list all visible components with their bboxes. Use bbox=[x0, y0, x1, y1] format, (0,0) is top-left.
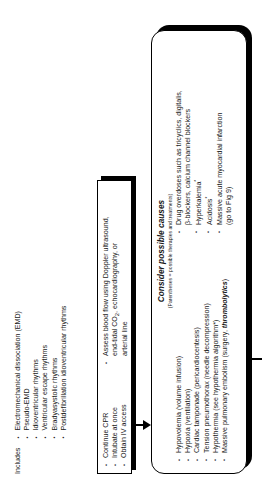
list-item: Idioventricular rhythms bbox=[32, 306, 41, 439]
assess-line-2b: , echocardiography, or bbox=[111, 243, 119, 313]
includes-label: Includes bbox=[14, 439, 22, 474]
consider-possible-causes-box: Consider possible causes (Parentheses = … bbox=[151, 30, 247, 474]
assessment-list: Assess blood flow using Doppler ultrasou… bbox=[102, 187, 130, 364]
myocardial-infarction-line-2: (go to Fig 9) bbox=[225, 187, 233, 225]
list-item: Postdefibrillation idioventricular rhyth… bbox=[60, 306, 69, 439]
assess-line-1: Assess blood flow using Doppler ultrasou… bbox=[102, 216, 110, 356]
interventions-box: Continue CPR Intubate at once Obtain IV … bbox=[97, 180, 132, 474]
arrow-down-icon bbox=[132, 418, 152, 432]
includes-list: Electromechanical dissociation (EMD) Pse… bbox=[14, 306, 69, 439]
list-item: Hypoxia (ventilation) bbox=[184, 245, 193, 461]
list-item: Massive pulmonary embolism (surgery, thr… bbox=[221, 245, 230, 461]
causes-title: Consider possible causes bbox=[157, 41, 166, 461]
list-item: Acidosis* bbox=[204, 41, 215, 233]
embolism-suffix: ) bbox=[221, 279, 229, 281]
assess-line-3: arterial line bbox=[121, 321, 129, 356]
list-item: Cardiac tamponade (pericardiocentesis) bbox=[193, 245, 202, 461]
list-item: Bradyasystolic rhythms bbox=[51, 306, 60, 439]
causes-left-column: Hypovolemia (volume infusion) Hypoxia (v… bbox=[175, 245, 230, 461]
interventions-box-content: Continue CPR Intubate at once Obtain IV … bbox=[97, 180, 132, 474]
causes-columns: Hypovolemia (volume infusion) Hypoxia (v… bbox=[175, 41, 234, 461]
list-item: Assess blood flow using Doppler ultrasou… bbox=[102, 187, 130, 364]
list-item: Pseudo-EMD bbox=[23, 306, 32, 439]
embolism-prefix: Massive pulmonary embolism (surgery, bbox=[221, 328, 229, 453]
drug-overdose-line-2: β-blockers, calcium channel blockers bbox=[184, 109, 192, 225]
diagram-canvas: Includes Electromechanical dissociation … bbox=[0, 0, 262, 482]
list-item: Hypothermia (see hypothermia algorithm*) bbox=[212, 245, 221, 461]
list-item: Continue CPR bbox=[102, 370, 111, 466]
interventions-right-column: Assess blood flow using Doppler ultrasou… bbox=[102, 187, 130, 370]
arrow-head bbox=[143, 420, 151, 430]
list-item: Tension pneumothorax (needle decompressi… bbox=[203, 245, 212, 461]
diagram-viewport: Includes Electromechanical dissociation … bbox=[0, 0, 262, 482]
list-item: Hypovolemia (volume infusion) bbox=[175, 245, 184, 461]
drug-overdose-line-1: Drug overdoses such as tricyclics, digit… bbox=[175, 90, 183, 225]
co2-subscript: 2 bbox=[114, 313, 120, 316]
exit-connector-line bbox=[247, 358, 262, 360]
interventions-list: Continue CPR Intubate at once Obtain IV … bbox=[102, 370, 129, 466]
causes-subtitle: (Parentheses = possible therapies and tr… bbox=[167, 41, 173, 461]
list-item: Massive acute myocardial infarction(go t… bbox=[216, 41, 233, 233]
list-item: Electromechanical dissociation (EMD) bbox=[14, 306, 23, 439]
acidosis-footnote-marker: * bbox=[204, 197, 210, 199]
hyperkalemia-label: Hyperkalemia bbox=[195, 182, 203, 225]
interventions-left-column: Continue CPR Intubate at once Obtain IV … bbox=[102, 370, 129, 466]
hyperkalemia-footnote-marker: * bbox=[193, 180, 199, 182]
causes-box-content: Consider possible causes (Parentheses = … bbox=[151, 30, 247, 474]
list-item: Intubate at once bbox=[111, 370, 120, 466]
list-item: Hyperkalemia* bbox=[193, 41, 204, 233]
causes-right-column: Drug overdoses such as tricyclics, digit… bbox=[175, 41, 234, 245]
list-item: Drug overdoses such as tricyclics, digit… bbox=[175, 41, 192, 233]
acidosis-label: Acidosis bbox=[207, 199, 215, 225]
causes-right-list: Drug overdoses such as tricyclics, digit… bbox=[175, 41, 233, 233]
list-item: Ventricular escape rhythms bbox=[41, 306, 50, 439]
list-item: Obtain IV access bbox=[120, 370, 129, 466]
includes-group: Includes Electromechanical dissociation … bbox=[14, 306, 69, 474]
assess-line-2a: end-tidal CO bbox=[111, 316, 119, 356]
myocardial-infarction-line-1: Massive acute myocardial infarction bbox=[216, 113, 224, 225]
thrombolytics-emphasis: thrombolytics bbox=[221, 281, 229, 328]
causes-left-list: Hypovolemia (volume infusion) Hypoxia (v… bbox=[175, 245, 229, 461]
